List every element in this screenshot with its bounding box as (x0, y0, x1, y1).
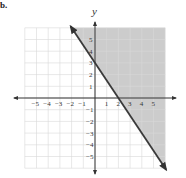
y-tick-label: −1 (86, 106, 94, 114)
x-tick-label: 1 (105, 100, 109, 108)
coordinate-plane-chart: y−5−4−3−2−112345−5−4−3−2−112345 (0, 0, 186, 178)
y-tick-label: −2 (86, 118, 94, 126)
x-tick-label: −5 (32, 100, 40, 108)
y-tick-label: 2 (89, 71, 93, 79)
x-tick-label: −3 (55, 100, 63, 108)
x-tick-label: 4 (140, 100, 144, 108)
x-tick-label: 3 (128, 100, 132, 108)
y-tick-label: 1 (89, 83, 93, 91)
x-tick-label: −4 (43, 100, 51, 108)
y-tick-label: −4 (86, 141, 94, 149)
x-tick-label: 5 (152, 100, 156, 108)
x-tick-label: −2 (67, 100, 75, 108)
y-tick-label: 5 (89, 36, 93, 44)
y-tick-label: −3 (86, 130, 94, 138)
y-axis-label: y (91, 5, 97, 17)
y-tick-label: −5 (86, 153, 94, 161)
